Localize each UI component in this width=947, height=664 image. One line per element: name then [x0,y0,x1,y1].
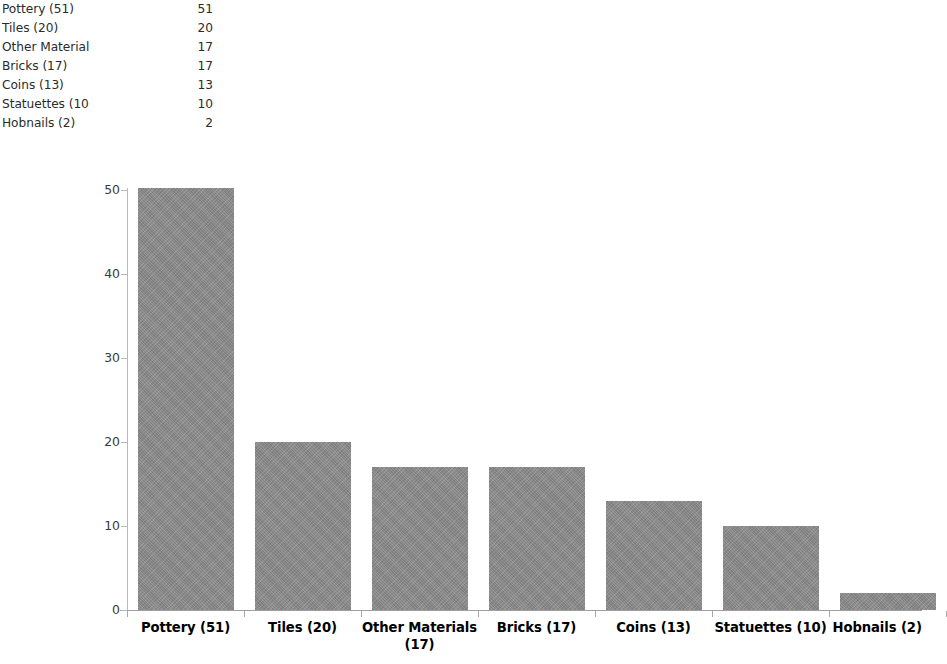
finds-data-table: Pottery (51) 51 Tiles (20) 20 Other Mate… [0,0,230,133]
x-axis-tick-mark [244,611,245,617]
bar [723,526,819,610]
table-row: Other Material 17 [0,38,230,57]
x-axis-category-label: Tiles (20) [241,619,365,636]
table-row: Statuettes (10 10 [0,95,230,114]
table-row: Bricks (17) 17 [0,57,230,76]
table-row-label: Coins (13) [2,76,64,95]
table-row-label: Tiles (20) [2,19,58,38]
table-row: Pottery (51) 51 [0,0,230,19]
y-axis-tick-mark [121,190,127,191]
table-row: Coins (13) 13 [0,76,230,95]
y-axis-tick-label: 40 [84,268,120,280]
x-axis-category-label: Bricks (17) [475,619,599,636]
table-row-label: Hobnails (2) [2,114,75,133]
finds-bar-chart: 01020304050 Pottery (51)Tiles (20)Other … [0,178,922,664]
y-axis-tick-label: 10 [84,520,120,532]
x-axis-tick-mark [127,611,128,617]
table-row-label: Other Material [2,38,89,57]
bar [489,467,585,610]
y-axis-tick-label: 30 [84,352,120,364]
x-axis-category-label: Coins (13) [592,619,716,636]
x-axis-category-label: Statuettes (10) [709,619,833,636]
bar [606,501,702,610]
table-row-label: Pottery (51) [2,0,74,19]
x-axis-category-label: Hobnails (2) [833,619,923,636]
table-row-value: 2 [150,114,213,133]
x-axis-category-label: Pottery (51) [124,619,248,636]
table-row-label: Bricks (17) [2,57,67,76]
table-row-value: 17 [150,57,213,76]
x-axis-tick-mark [712,611,713,617]
x-axis-tick-mark [361,611,362,617]
y-axis-tick-label: 50 [84,184,120,196]
bar [255,442,351,610]
y-axis-tick-label: 20 [84,436,120,448]
bar [372,467,468,610]
table-row-value: 13 [150,76,213,95]
bar [138,188,234,610]
table-row-value: 51 [150,0,213,19]
table-row: Tiles (20) 20 [0,19,230,38]
y-axis-tick-mark [121,358,127,359]
x-axis-category-label: Other Materials (17) [358,619,482,653]
table-row-value: 10 [150,95,213,114]
y-axis-tick-mark [121,526,127,527]
bar [840,593,936,610]
table-row: Hobnails (2) 2 [0,114,230,133]
y-axis-tick-label: 0 [84,604,120,616]
y-axis-tick-mark [121,442,127,443]
table-row-label: Statuettes (10 [2,95,89,114]
x-axis-tick-mark [829,611,830,617]
y-axis-tick-mark [121,274,127,275]
x-axis-tick-mark [595,611,596,617]
table-row-value: 17 [150,38,213,57]
x-axis-tick-mark [478,611,479,617]
x-axis-line [120,610,922,611]
y-axis-line [127,188,128,611]
table-row-value: 20 [150,19,213,38]
